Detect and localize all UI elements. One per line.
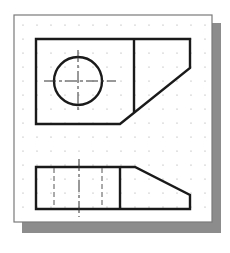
drawing-canvas bbox=[0, 0, 230, 253]
